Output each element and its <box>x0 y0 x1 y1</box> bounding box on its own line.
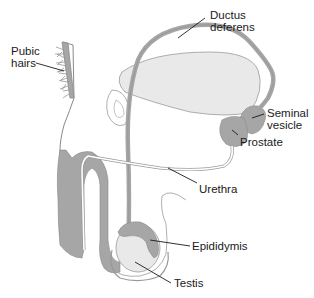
label-ductus-deferens: Ductus deferens <box>210 9 255 33</box>
label-testis: Testis <box>174 277 203 289</box>
label-pubic-hairs: Pubic hairs <box>11 45 40 69</box>
penis-shaded <box>57 150 120 273</box>
label-epididymis: Epididymis <box>192 240 248 252</box>
anatomy-illustration <box>0 0 314 298</box>
label-seminal-vesicle: Seminal vesicle <box>267 107 309 131</box>
pubic-skin-strip <box>62 42 74 98</box>
bladder <box>119 52 260 115</box>
label-urethra: Urethra <box>199 183 237 195</box>
male-reproductive-anatomy-diagram: Pubic hairs Ductus deferens Seminal vesi… <box>0 0 314 298</box>
label-prostate: Prostate <box>240 136 283 148</box>
